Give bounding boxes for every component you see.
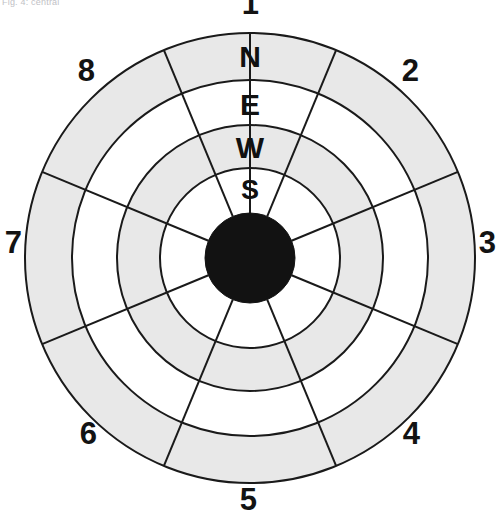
ring-letter-s: S bbox=[227, 177, 273, 204]
hub-disc bbox=[205, 213, 295, 303]
index-label-8: 8 bbox=[69, 55, 103, 86]
index-label-5: 5 bbox=[231, 484, 265, 515]
ring-letter-e: E bbox=[227, 90, 273, 120]
index-label-2: 2 bbox=[393, 55, 427, 86]
hub-group bbox=[205, 213, 295, 303]
ring-letter-w: W bbox=[227, 133, 273, 163]
index-label-1: 1 bbox=[233, 0, 267, 19]
diagram-canvas: Fig. 4: central NEWS 12345678 bbox=[0, 0, 501, 522]
ring-letter-n: N bbox=[227, 42, 273, 72]
index-label-6: 6 bbox=[71, 418, 105, 449]
index-label-3: 3 bbox=[470, 227, 501, 258]
index-label-4: 4 bbox=[394, 418, 428, 449]
index-label-7: 7 bbox=[0, 227, 30, 258]
